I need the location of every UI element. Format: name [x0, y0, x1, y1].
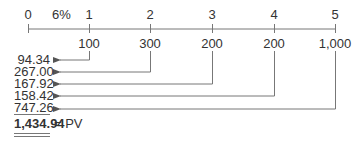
interest-rate: 6% [52, 8, 71, 22]
cash-flow-3: 200 [201, 37, 223, 51]
period-3: 3 [208, 8, 215, 22]
connector-3 [60, 51, 213, 84]
cash-flow-5: 1,000 [319, 37, 352, 51]
connector-1 [60, 51, 90, 60]
cash-flow-4: 200 [263, 37, 285, 51]
total-pv-label: = PV [54, 117, 83, 131]
connector-2 [60, 51, 151, 72]
connector-4 [60, 51, 275, 96]
connector-5 [60, 51, 336, 109]
cash-flow-2: 300 [139, 37, 161, 51]
period-0: 0 [24, 8, 31, 22]
period-2: 2 [146, 8, 153, 22]
period-5: 5 [331, 8, 338, 22]
period-4: 4 [270, 8, 277, 22]
pv-5: 747.26 [14, 102, 50, 114]
cash-flow-1: 100 [78, 37, 100, 51]
period-1: 1 [85, 8, 92, 22]
